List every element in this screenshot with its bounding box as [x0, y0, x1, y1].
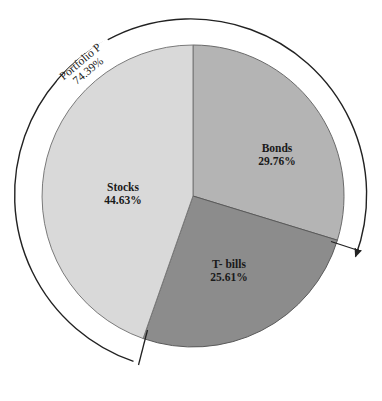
- pie-slices: [42, 45, 344, 347]
- tbills-label: T- bills: [212, 258, 246, 270]
- bonds-label: Bonds: [262, 142, 293, 154]
- stocks-pct: 44.63%: [104, 194, 141, 206]
- pie-chart: Portfolio P 74.39% Bonds 29.76% T- bills…: [0, 0, 382, 401]
- bonds-pct: 29.76%: [258, 155, 295, 167]
- stocks-label: Stocks: [107, 181, 139, 193]
- tbills-pct: 25.61%: [210, 271, 247, 283]
